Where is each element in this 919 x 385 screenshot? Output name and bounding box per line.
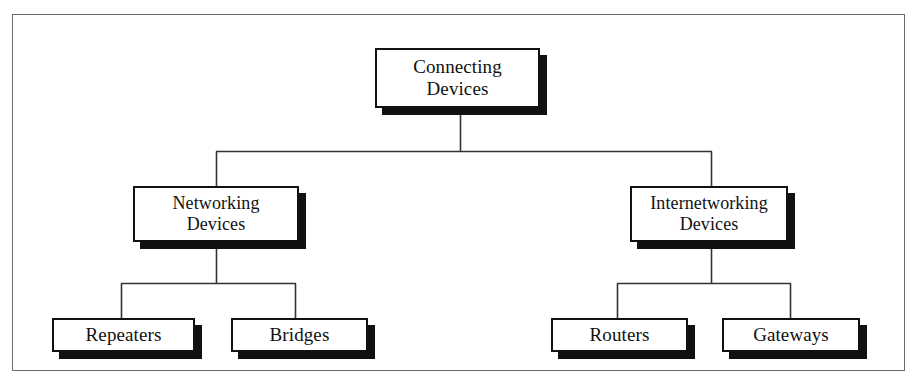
node-label-connecting-devices: Connecting Devices bbox=[407, 56, 508, 101]
node-label-internetworking-devices: Internetworking Devices bbox=[644, 193, 773, 235]
node-repeaters: Repeaters bbox=[52, 318, 195, 352]
node-internetworking-devices: Internetworking Devices bbox=[630, 186, 788, 242]
diagram-page: Connecting Devices Networking Devices In… bbox=[0, 0, 919, 385]
node-gateways: Gateways bbox=[722, 318, 860, 352]
node-routers: Routers bbox=[551, 318, 688, 352]
node-label-gateways: Gateways bbox=[747, 324, 835, 346]
node-label-networking-devices: Networking Devices bbox=[167, 193, 266, 235]
node-label-routers: Routers bbox=[584, 324, 656, 346]
node-label-repeaters: Repeaters bbox=[80, 324, 168, 346]
node-label-bridges: Bridges bbox=[264, 324, 336, 346]
node-networking-devices: Networking Devices bbox=[133, 186, 299, 242]
node-bridges: Bridges bbox=[231, 318, 368, 352]
node-connecting-devices: Connecting Devices bbox=[375, 48, 540, 108]
